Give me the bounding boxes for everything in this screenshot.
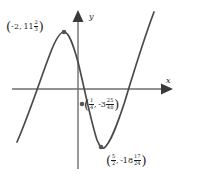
label-local-minimum: (52, -181724) xyxy=(106,154,147,167)
paren-open: ( xyxy=(84,97,89,112)
min-y-fraction: 1724 xyxy=(134,154,142,166)
y-axis-arrowhead xyxy=(73,10,84,22)
y-axis-label: y xyxy=(89,13,94,21)
paren-close: ) xyxy=(39,19,44,34)
max-y-whole: 11 xyxy=(23,22,33,31)
infl-y-fraction: 2548 xyxy=(106,98,114,110)
marker-local-minimum xyxy=(99,145,104,150)
x-axis-label: x xyxy=(166,77,171,85)
x-axis-arrowhead xyxy=(161,84,173,95)
label-local-maximum: (-2, 1123) xyxy=(6,20,44,33)
paren-close: ) xyxy=(141,153,146,168)
paren-open: ( xyxy=(106,153,111,168)
infl-y-whole: 3 xyxy=(101,100,106,109)
min-y-whole: 18 xyxy=(123,156,133,165)
cubic-graph-figure: y x (-2, 1123) (14, -32548) (52, -181724… xyxy=(0,0,200,184)
paren-close: ) xyxy=(114,97,119,112)
marker-local-maximum xyxy=(62,30,67,35)
label-inflection-point: (14, -32548) xyxy=(84,98,119,111)
